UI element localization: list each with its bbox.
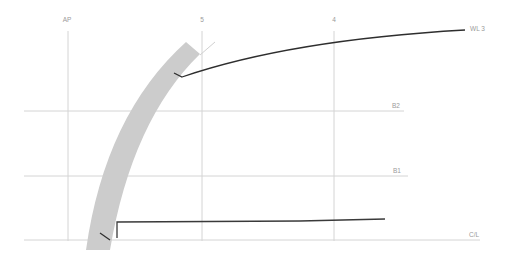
waterline-label-wl3: WL 3 — [470, 25, 485, 32]
centerline-label: C/L — [469, 231, 480, 238]
waterline-wl3-curve — [174, 30, 465, 77]
buttock-label-b2: B2 — [392, 102, 400, 109]
station-label-4: 4 — [332, 16, 336, 23]
buttock-label-b1: B1 — [393, 167, 401, 174]
hull-band — [86, 42, 200, 250]
hull-lines-diagram: AP 5 4 WL 3 B2 B1 C/L — [0, 0, 510, 261]
bottom-profile-line — [117, 219, 385, 238]
station-label-ap: AP — [63, 16, 72, 23]
station-label-5: 5 — [200, 16, 204, 23]
